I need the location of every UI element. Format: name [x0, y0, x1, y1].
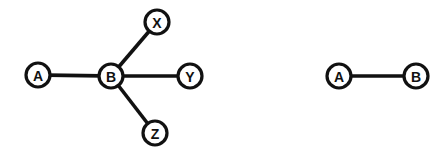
graph-node-A[interactable]: A [26, 63, 50, 87]
graph-node-Y[interactable]: Y [178, 64, 202, 88]
node-label-Y: Y [185, 69, 195, 85]
graph-diagram: ABXYZAB [0, 0, 446, 155]
graph-node-A2[interactable]: A [327, 64, 351, 88]
graph-edge-B-X [117, 29, 151, 69]
node-label-X: X [152, 15, 162, 31]
node-label-B2: B [411, 69, 421, 85]
node-label-Z: Z [151, 126, 160, 142]
graph-node-Z[interactable]: Z [143, 121, 167, 145]
graph-edge-A-B [47, 75, 101, 76]
diagram-canvas: ABXYZAB [0, 0, 446, 155]
graph-node-X[interactable]: X [145, 10, 169, 34]
graph-node-B2[interactable]: B [404, 64, 428, 88]
node-label-B: B [106, 69, 116, 85]
graph-edge-B-Z [117, 84, 149, 126]
node-label-A2: A [334, 69, 344, 85]
node-label-A: A [33, 68, 43, 84]
graph-node-B[interactable]: B [99, 64, 123, 88]
